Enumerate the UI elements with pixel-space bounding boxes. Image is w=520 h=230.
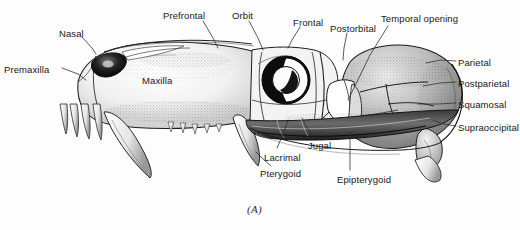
label-frontal: Frontal — [293, 17, 323, 28]
label-temporal-opening: Temporal opening — [381, 13, 458, 24]
label-parietal: Parietal — [458, 57, 491, 68]
label-postorbital: Postorbital — [330, 23, 376, 34]
label-premaxilla: Premaxilla — [4, 64, 49, 75]
label-maxilla: Maxilla — [142, 75, 172, 86]
skull-figure: PremaxillaNasalPrefrontalOrbitFrontalPos… — [0, 0, 520, 230]
label-lacrimal: Lacrimal — [264, 152, 301, 163]
label-squamosal: Squamosal — [458, 99, 506, 110]
label-prefrontal: Prefrontal — [163, 10, 205, 21]
figure-caption: (A) — [247, 203, 262, 215]
leader-nasal — [82, 37, 96, 54]
snout-region — [78, 40, 257, 134]
premaxillary-teeth — [60, 104, 102, 140]
label-supraoccipital: Supraoccipital — [458, 122, 519, 133]
leader-postorbital — [343, 33, 347, 60]
label-jugal: Jugal — [308, 140, 331, 151]
label-postparietal: Postparietal — [458, 78, 509, 89]
label-pterygoid: Pterygoid — [260, 168, 301, 179]
leader-frontal — [288, 27, 300, 48]
label-epipterygoid: Epipterygoid — [337, 174, 391, 185]
label-nasal: Nasal — [59, 28, 84, 39]
label-orbit: Orbit — [232, 10, 253, 21]
